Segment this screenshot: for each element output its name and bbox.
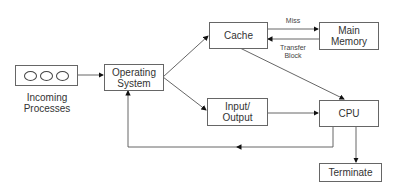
main-memory-box: Main Memory	[319, 22, 379, 50]
arrow-os-to-cache	[163, 36, 208, 77]
cpu-box: CPU	[319, 100, 379, 127]
incoming-processes-label: Incoming Processes	[10, 92, 84, 114]
incoming-processes-box	[15, 65, 78, 86]
miss-label: Miss	[280, 17, 306, 25]
terminate-box: Terminate	[319, 163, 382, 182]
cache-box: Cache	[209, 22, 268, 49]
operating-system-box: Operating System	[104, 64, 164, 91]
arrow-os-to-io	[163, 77, 206, 110]
transfer-block-label: Transfer Block	[275, 44, 311, 60]
process-queue-icon	[24, 71, 69, 81]
input-output-box: Input/ Output	[207, 98, 268, 126]
